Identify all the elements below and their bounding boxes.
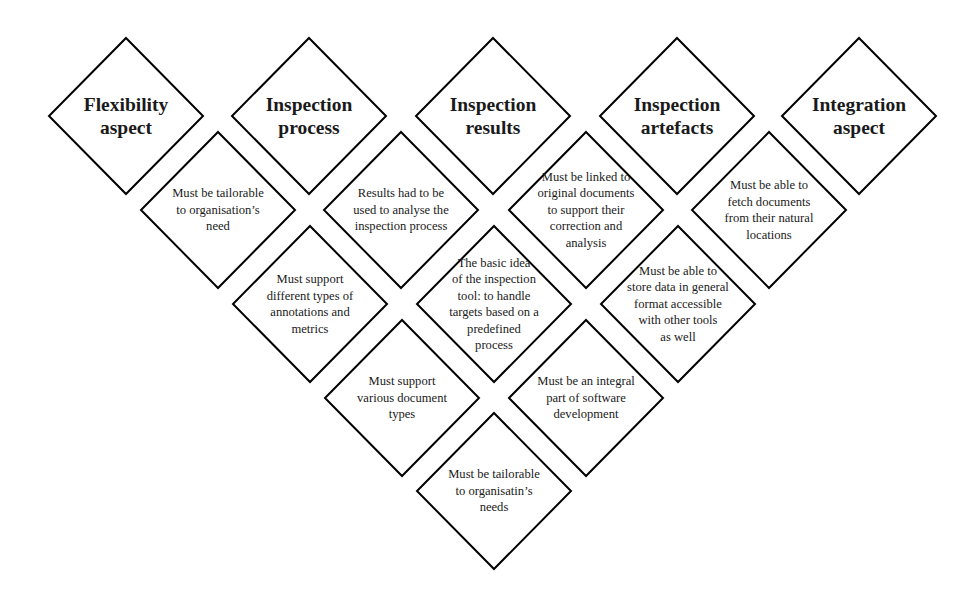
requirement-label: The basic idea of the inspection tool: t… — [449, 255, 539, 354]
header-integration-aspect: Integration aspect — [794, 86, 924, 146]
requirement-label: Must be tailorable to organisatin’s need… — [448, 466, 540, 516]
requirement-fetch-documents: Must be able to fetch documents from the… — [707, 160, 831, 260]
header-label: Inspection process — [266, 93, 353, 139]
header-label: Flexibility aspect — [84, 93, 169, 139]
requirement-various-document-types: Must support various document types — [340, 348, 464, 448]
requirement-basic-idea: The basic idea of the inspection tool: t… — [432, 254, 556, 354]
requirement-label: Results had to be used to analyse the in… — [353, 185, 448, 235]
requirement-store-data-general-format: Must be able to store data in general fo… — [616, 254, 740, 354]
requirement-label: Must support different types of annotati… — [267, 271, 354, 337]
requirement-linked-original-documents: Must be linked to original documents to … — [524, 160, 648, 260]
requirement-label: Must be tailorable to organisation’s nee… — [172, 185, 264, 235]
header-inspection-artefacts: Inspection artefacts — [612, 86, 742, 146]
header-label: Inspection results — [450, 93, 537, 139]
requirement-label: Must be an integral part of software dev… — [537, 373, 635, 423]
header-label: Inspection artefacts — [634, 93, 721, 139]
requirement-label: Must be able to store data in general fo… — [627, 263, 729, 346]
requirement-label: Must be linked to original documents to … — [538, 169, 635, 252]
header-inspection-process: Inspection process — [244, 86, 374, 146]
requirement-integral-part-development: Must be an integral part of software dev… — [524, 348, 648, 448]
header-flexibility-aspect: Flexibility aspect — [61, 86, 191, 146]
header-inspection-results: Inspection results — [428, 86, 558, 146]
requirement-annotations-metrics: Must support different types of annotati… — [248, 254, 372, 354]
header-label: Integration aspect — [812, 93, 906, 139]
requirement-tailorable-organisatin-needs: Must be tailorable to organisatin’s need… — [432, 441, 556, 541]
requirement-label: Must be able to fetch documents from the… — [725, 177, 814, 243]
requirements-diamond-diagram: Flexibility aspect Inspection process In… — [0, 0, 979, 607]
requirement-results-analyse-process: Results had to be used to analyse the in… — [339, 160, 463, 260]
requirement-tailorable-organisation-need: Must be tailorable to organisation’s nee… — [156, 160, 280, 260]
requirement-label: Must support various document types — [357, 373, 447, 423]
